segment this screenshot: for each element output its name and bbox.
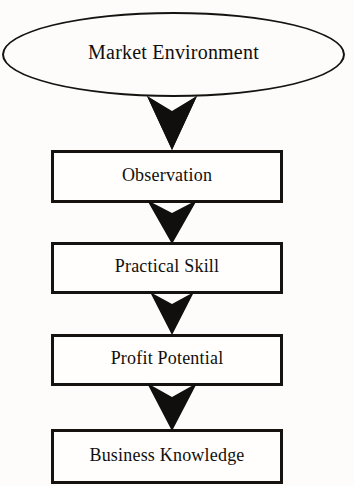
arrow-down-icon-4 <box>147 383 197 431</box>
flow-node-market-environment: Market Environment <box>2 12 345 97</box>
arrow-down-icon-2 <box>147 200 197 244</box>
flow-node-label-profit-potential: Profit Potential <box>54 348 280 369</box>
flow-node-label-market-environment: Market Environment <box>2 41 345 64</box>
flow-node-label-practical-skill: Practical Skill <box>54 256 280 277</box>
flowchart-diagram: Market Environment Observation Practical… <box>0 0 354 486</box>
flow-node-label-observation: Observation <box>54 165 280 186</box>
flow-node-observation: Observation <box>51 150 283 203</box>
arrow-down-icon-1 <box>147 96 197 150</box>
flow-node-label-business-knowledge: Business Knowledge <box>54 445 280 466</box>
arrow-down-icon-3 <box>150 292 194 335</box>
flow-node-profit-potential: Profit Potential <box>51 334 283 386</box>
flow-node-business-knowledge: Business Knowledge <box>51 429 283 484</box>
flow-node-practical-skill: Practical Skill <box>51 242 283 294</box>
